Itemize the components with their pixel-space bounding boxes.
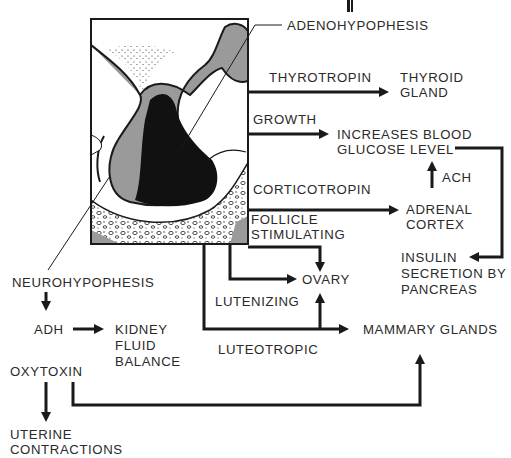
label-thyrotropin: THYROTROPIN <box>269 70 372 85</box>
label-insulin-1: INSULIN <box>401 250 457 265</box>
label-uterine-1: UTERINE <box>10 427 72 442</box>
label-adrenal-1: ADRENAL <box>406 202 473 217</box>
label-ovary: OVARY <box>302 272 350 287</box>
label-adh: ADH <box>34 322 64 337</box>
label-thyroid-1: THYROID <box>400 70 464 85</box>
label-mammary: MAMMARY GLANDS <box>363 322 498 337</box>
label-ach: ACH <box>442 170 472 185</box>
top-bar-fragment <box>347 0 353 12</box>
label-growth: GROWTH <box>253 112 317 127</box>
label-luteotropic: LUTEOTROPIC <box>218 342 318 357</box>
label-kidney-2: FLUID <box>115 338 156 353</box>
label-insulin-2: SECRETION BY <box>401 266 506 281</box>
label-insulin-3: PANCREAS <box>401 282 477 297</box>
label-uterine-2: CONTRACTIONS <box>10 442 123 457</box>
label-follicle-1: FOLLICLE <box>251 212 318 227</box>
label-corticotropin: CORTICOTROPIN <box>253 182 371 197</box>
label-glucose-2: GLUCOSE LEVEL <box>337 142 454 157</box>
label-oxytoxin: OXYTOXIN <box>10 364 83 379</box>
label-follicle-2: STIMULATING <box>251 227 345 242</box>
label-neurohypophesis: NEUROHYPOPHESIS <box>12 275 154 290</box>
pituitary-illustration <box>91 19 250 244</box>
label-lutenizing: LUTENIZING <box>215 294 299 309</box>
label-thyroid-2: GLAND <box>400 85 448 100</box>
arrow-follicle <box>248 247 320 268</box>
label-glucose-1: INCREASES BLOOD <box>337 127 472 142</box>
arrow-lutenizing <box>230 244 293 279</box>
label-kidney-3: BALANCE <box>115 354 181 369</box>
label-kidney-1: KIDNEY <box>115 322 168 337</box>
label-adrenal-2: CORTEX <box>406 217 464 232</box>
label-adenohypophesis: ADENOHYPOPHESIS <box>287 18 429 33</box>
